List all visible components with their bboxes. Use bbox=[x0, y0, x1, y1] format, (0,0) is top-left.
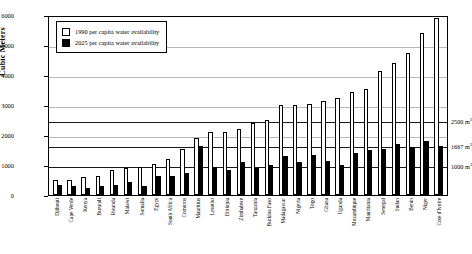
x-axis-label-cell: South Africa bbox=[163, 197, 177, 254]
x-axis-label: Tanzania bbox=[252, 198, 258, 217]
bar-group bbox=[431, 17, 445, 195]
bar-2025 bbox=[241, 162, 245, 195]
legend-item-1990: 1990 per capita water availability bbox=[62, 26, 159, 37]
threshold-label: 1000 m3 bbox=[451, 162, 472, 170]
x-axis-label-cell: Ethiopia bbox=[220, 197, 234, 254]
bar-2025 bbox=[100, 186, 104, 195]
bar-2025 bbox=[368, 150, 372, 195]
x-axis-label-cell: Mauritius bbox=[191, 197, 205, 254]
bar-2025 bbox=[326, 161, 330, 196]
y-axis-tick-label: 5000 bbox=[0, 42, 14, 49]
x-axis-label-cell: Ghana bbox=[319, 197, 333, 254]
x-axis-label: South Africa bbox=[167, 198, 173, 225]
x-axis-label-cell: Mozambique bbox=[347, 197, 361, 254]
x-axis-label-cell: Benin bbox=[404, 197, 418, 254]
x-axis-label-cell: Madagascar bbox=[276, 197, 290, 254]
legend-swatch-1990 bbox=[62, 28, 70, 36]
x-axis-label: Mauritius bbox=[195, 198, 201, 219]
bar-2025 bbox=[255, 168, 259, 195]
x-axis-label-cell: Malawi bbox=[120, 197, 134, 254]
y-axis-tick-label: 6000 bbox=[0, 12, 14, 19]
x-axis-label: Nigeria bbox=[295, 198, 301, 214]
legend-label-2025: 2025 per capita water availability bbox=[75, 39, 159, 46]
bar-2025 bbox=[86, 188, 90, 196]
x-axis-label: Sudan bbox=[394, 198, 400, 211]
bar-group bbox=[192, 17, 206, 195]
legend-label-1990: 1990 per capita water availability bbox=[75, 28, 159, 35]
bar-2025 bbox=[312, 155, 316, 196]
x-axis-label: Ethiopia bbox=[224, 198, 230, 216]
x-axis-label: Zimbabwe bbox=[238, 198, 244, 221]
x-axis-label: Malawi bbox=[124, 198, 130, 214]
bar-group bbox=[234, 17, 248, 195]
bar-group bbox=[206, 17, 220, 195]
bar-group bbox=[290, 17, 304, 195]
x-axis-label: Comoros bbox=[181, 198, 187, 217]
bar-2025 bbox=[410, 147, 414, 195]
x-axis-label: Senegal bbox=[380, 198, 386, 215]
bar-group bbox=[319, 17, 333, 195]
x-axis-label: Benin bbox=[408, 198, 414, 211]
bar-2025 bbox=[156, 176, 160, 196]
x-axis-label-cell: Tanzania bbox=[248, 197, 262, 254]
x-axis-label-cell: Nigeria bbox=[290, 197, 304, 254]
bar-group bbox=[375, 17, 389, 195]
bar-2025 bbox=[382, 149, 386, 196]
bar-2025 bbox=[72, 186, 76, 195]
x-axis-label-cell: Burkina Faso bbox=[262, 197, 276, 254]
x-axis-label: Somalia bbox=[139, 198, 145, 215]
x-axis-label-cell: Niger bbox=[418, 197, 432, 254]
x-axis-label-cell: Mauritania bbox=[361, 197, 375, 254]
x-axis-label-cell: Burundi bbox=[92, 197, 106, 254]
x-axis-label: Cape Verde bbox=[68, 198, 74, 222]
x-axis-label: Kenya bbox=[82, 198, 88, 212]
x-axis-label: Uganda bbox=[337, 198, 343, 214]
x-axis-label-cell: Rwanda bbox=[106, 197, 120, 254]
bar-2025 bbox=[170, 176, 174, 196]
x-axis-label-cell: Sudan bbox=[390, 197, 404, 254]
x-axis-label: Togo bbox=[309, 198, 315, 209]
x-axis-label-cell: Comoros bbox=[177, 197, 191, 254]
bar-group bbox=[220, 17, 234, 195]
x-axis-label-cell: Djibouti bbox=[50, 197, 64, 254]
x-axis-label-cell: Egypt bbox=[149, 197, 163, 254]
bar-group bbox=[262, 17, 276, 195]
bar-2025 bbox=[114, 185, 118, 196]
x-axis-label-cell: Cape Verde bbox=[64, 197, 78, 254]
x-axis-label: Djibouti bbox=[54, 198, 60, 216]
bar-group bbox=[276, 17, 290, 195]
y-axis-tick-label: 0 bbox=[0, 192, 14, 199]
bar-2025 bbox=[424, 141, 428, 195]
legend-item-2025: 2025 per capita water availability bbox=[62, 37, 159, 48]
bar-group bbox=[389, 17, 403, 195]
bar-2025 bbox=[283, 156, 287, 195]
bar-group bbox=[347, 17, 361, 195]
bar-2025 bbox=[396, 144, 400, 195]
x-axis-label: Madagascar bbox=[280, 198, 286, 224]
bar-2025 bbox=[439, 146, 443, 196]
x-axis-label-cell: Togo bbox=[305, 197, 319, 254]
bar-group bbox=[417, 17, 431, 195]
bar-group bbox=[248, 17, 262, 195]
x-axis-label: Rwanda bbox=[110, 198, 116, 215]
x-axis-label-cell: Lesotho bbox=[205, 197, 219, 254]
x-axis-label: Mozambique bbox=[351, 198, 357, 226]
bar-group bbox=[304, 17, 318, 195]
x-axis-label-cell: Somalia bbox=[135, 197, 149, 254]
x-axis-label: Lesotho bbox=[209, 198, 215, 215]
x-axis-label-cell: Senegal bbox=[375, 197, 389, 254]
x-axis-label: Mauritania bbox=[365, 198, 371, 221]
bar-2025 bbox=[354, 153, 358, 195]
x-axis-label-cell: Cote d'Ivoire bbox=[432, 197, 446, 254]
bar-2025 bbox=[58, 185, 62, 196]
x-axis-label: Egypt bbox=[153, 198, 159, 211]
x-axis-label-cell: Kenya bbox=[78, 197, 92, 254]
bar-2025 bbox=[199, 146, 203, 196]
y-axis-tick-label: 3000 bbox=[0, 102, 14, 109]
x-axis-label: Burkina Faso bbox=[266, 198, 272, 226]
bar-2025 bbox=[142, 186, 146, 195]
bar-group bbox=[403, 17, 417, 195]
bar-2025 bbox=[213, 167, 217, 196]
bar-2025 bbox=[297, 162, 301, 195]
